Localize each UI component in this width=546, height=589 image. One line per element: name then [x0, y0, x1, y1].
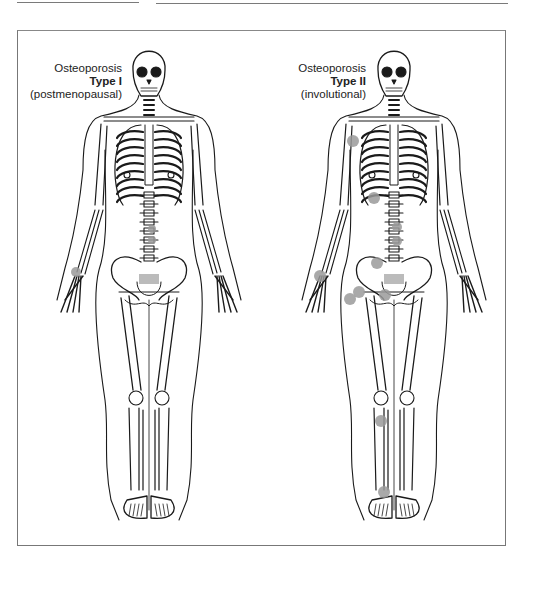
- fracture-site-distal-radius: [71, 267, 81, 277]
- fracture-site-proximal-tibia: [375, 415, 387, 427]
- fracture-site-pelvis-ilium: [371, 257, 383, 269]
- fracture-site-proximal-femur: [344, 293, 356, 305]
- skeleton-illustrations: [0, 0, 546, 589]
- fracture-site-distal-radius: [314, 270, 326, 282]
- skeleton-type2: [302, 51, 486, 520]
- fracture-site-thoracic-vertebra: [392, 222, 402, 232]
- fracture-site-proximal-humerus: [347, 135, 359, 147]
- skeleton-type1: [57, 51, 241, 520]
- fracture-site-lumbar-vertebra: [392, 236, 402, 246]
- fracture-site-pubic-ramus: [379, 289, 391, 301]
- fracture-site-lumbar-vertebra-1: [148, 225, 156, 233]
- fracture-site-distal-tibia: [378, 486, 390, 498]
- fracture-site-ribs: [368, 192, 380, 204]
- fracture-site-lumbar-vertebra-2: [148, 236, 156, 244]
